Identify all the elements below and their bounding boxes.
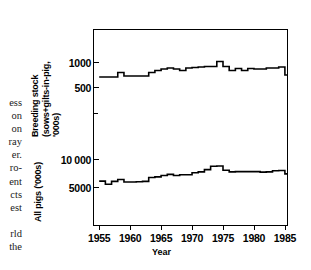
x-tick-label-1980: 1980: [243, 232, 265, 244]
y-axis-title-line1: Breeding stock: [30, 62, 41, 137]
x-axis-title: Year: [0, 247, 311, 257]
x-tick-mark-1980: [254, 225, 255, 230]
x-tick-mark-1960: [130, 225, 131, 230]
text-fragment: est: [0, 201, 24, 214]
y-tick-label-1000: 1000: [69, 57, 91, 69]
text-fragment: on: [0, 109, 24, 122]
x-tick-mark-1985: [285, 225, 286, 230]
text-fragment: er.: [0, 148, 24, 161]
y-tick-label-5000: 5000: [69, 182, 91, 194]
x-tick-label-1955: 1955: [88, 232, 110, 244]
paragraph-gap: [0, 214, 24, 227]
x-tick-mark-1955: [99, 225, 100, 230]
y-axis-tick-labels: 1000 500 10 000 5000: [46, 0, 91, 270]
series-line-all-pigs: [99, 166, 288, 184]
y-axis-title-all-pigs: All pigs ('000s): [33, 162, 44, 222]
x-tick-label-1975: 1975: [212, 232, 234, 244]
figure-page: ess on on ray er. ro- ent cts est rld th…: [0, 0, 311, 270]
text-fragment: ro-: [0, 161, 24, 174]
text-fragment: cts: [0, 188, 24, 201]
x-tick-mark-1975: [223, 225, 224, 230]
plot-area: [93, 29, 288, 225]
x-tick-label-1960: 1960: [119, 232, 141, 244]
adjacent-column-text: ess on on ray er. ro- ent cts est rld th…: [0, 96, 24, 253]
x-tick-mark-1965: [161, 225, 162, 230]
x-tick-label-1985: 1985: [274, 232, 296, 244]
x-tick-label-1965: 1965: [150, 232, 172, 244]
series-line-breeding-stock: [99, 62, 288, 78]
x-tick-mark-1970: [192, 225, 193, 230]
text-fragment: ray: [0, 135, 24, 148]
x-axis-title-text: Year: [152, 247, 171, 257]
text-fragment: on: [0, 122, 24, 135]
text-fragment: ess: [0, 96, 24, 109]
x-axis-line: [93, 225, 288, 226]
y-tick-label-500: 500: [74, 82, 91, 94]
y-tick-label-10000: 10 000: [61, 154, 91, 166]
data-series-layer: [93, 29, 288, 225]
x-tick-label-1970: 1970: [181, 232, 203, 244]
text-fragment: rld: [0, 227, 24, 240]
text-fragment: ent: [0, 175, 24, 188]
